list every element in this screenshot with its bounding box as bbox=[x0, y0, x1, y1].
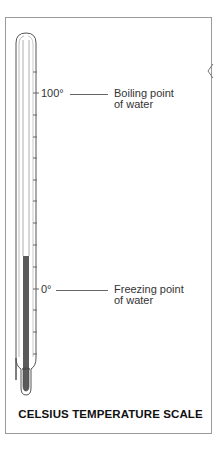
thermometer bbox=[0, 0, 221, 450]
thermometer-bulb bbox=[23, 368, 29, 391]
diagram-title: CELSIUS TEMPERATURE SCALE bbox=[0, 408, 221, 420]
boiling-point-label-line2: of water bbox=[114, 99, 153, 110]
boiling-point-value: 100° bbox=[41, 88, 64, 99]
mercury-column bbox=[23, 256, 29, 369]
freezing-point-value: 0° bbox=[41, 284, 52, 295]
freezing-point-leader-line bbox=[56, 290, 108, 291]
freezing-point-label-line2: of water bbox=[114, 295, 153, 306]
boiling-point-leader-line bbox=[70, 94, 108, 95]
